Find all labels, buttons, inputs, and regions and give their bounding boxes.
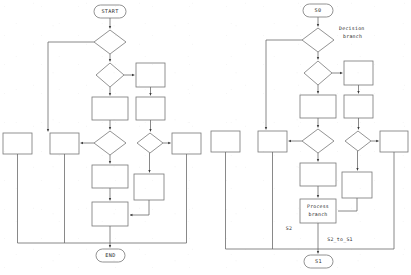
left-decision-1 <box>94 30 126 54</box>
process-branch-box: Process branch <box>300 199 336 223</box>
left-end-label: END <box>105 252 115 258</box>
left-decision-2 <box>96 63 124 87</box>
left-flowchart: START <box>3 5 201 262</box>
left-end-terminator: END <box>96 249 125 262</box>
left-process-2 <box>92 165 128 188</box>
left-process-far-right <box>172 133 201 154</box>
state-s2-label: S2 <box>286 225 292 231</box>
right-process-far-right <box>380 131 408 152</box>
flowchart-svg: START <box>0 0 411 275</box>
left-process-3 <box>92 202 128 226</box>
right-end-terminator: S1 <box>304 255 333 268</box>
decision-branch-annotation: Decision branch <box>339 25 365 39</box>
left-process-right-3 <box>134 174 164 200</box>
decision-branch-label-line1: Decision <box>339 25 365 31</box>
left-process-right-top <box>136 63 165 87</box>
right-start-terminator: S0 <box>303 4 333 17</box>
left-process-far-left <box>3 133 32 154</box>
left-start-terminator: START <box>94 5 126 18</box>
right-process-left <box>258 131 287 152</box>
left-start-label: START <box>101 8 118 14</box>
right-flowchart: S0 Decision branch <box>211 4 408 268</box>
process-branch-label-line1: Process <box>307 203 329 209</box>
left-process-1 <box>92 97 128 120</box>
flowchart-canvas: START <box>0 0 411 275</box>
left-decision-3 <box>94 131 126 155</box>
right-start-label: S0 <box>315 7 322 13</box>
right-process-1 <box>300 95 336 118</box>
right-process-right-top <box>344 61 373 85</box>
right-process-2 <box>300 163 336 186</box>
right-decision-3 <box>302 129 334 153</box>
left-decision-4 <box>137 133 163 153</box>
right-end-label: S1 <box>315 258 322 264</box>
transition-s2-to-s1-label: S2_to_S1 <box>327 236 353 243</box>
left-process-right-2 <box>136 97 165 120</box>
right-process-right-2 <box>344 95 373 118</box>
process-branch-label-line2: branch <box>309 211 328 217</box>
right-decision-4 <box>345 131 371 151</box>
right-decision-2 <box>304 61 332 85</box>
right-process-far-left <box>211 131 240 152</box>
right-process-right-3 <box>342 172 372 198</box>
left-process-left <box>50 133 79 154</box>
right-decision-1 <box>302 28 334 52</box>
decision-branch-label-line2: branch <box>343 33 362 39</box>
